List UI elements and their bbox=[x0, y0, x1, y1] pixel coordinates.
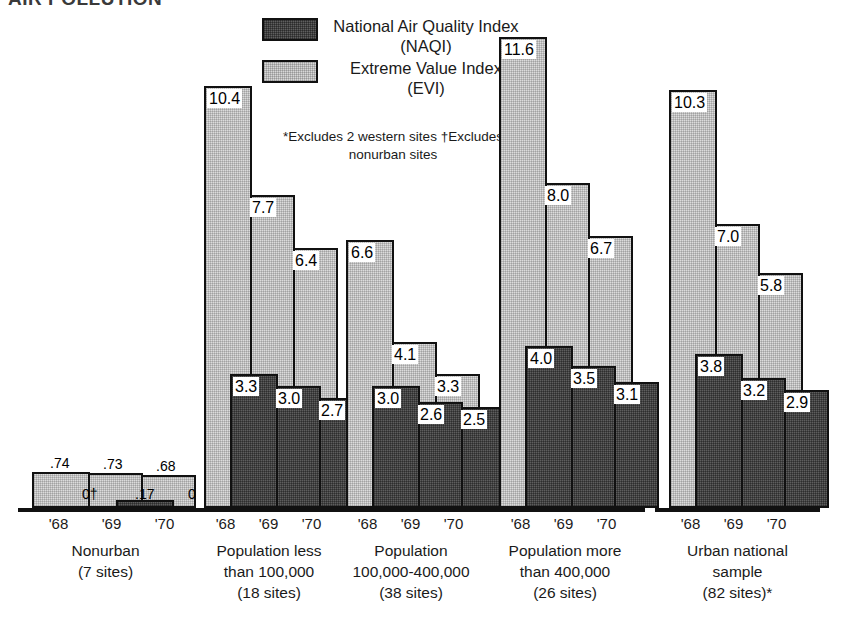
group-baseline bbox=[18, 508, 193, 512]
group-baseline bbox=[190, 508, 348, 512]
bar-value-label-naqi: 0 bbox=[186, 486, 198, 503]
bar-value-label-evi: 10.3 bbox=[672, 93, 707, 112]
bar-value-label-naqi: 2.6 bbox=[418, 405, 444, 424]
x-axis-year-labels: '68'69'70 bbox=[346, 515, 475, 532]
bar-naqi bbox=[695, 354, 743, 508]
x-axis-tick-label: '69 bbox=[389, 515, 432, 532]
bar-value-label-evi: 4.1 bbox=[392, 345, 418, 364]
bar-value-label-evi: 6.6 bbox=[349, 243, 375, 262]
chart-figure: AIR POLLUTION National Air Quality Index… bbox=[0, 0, 842, 626]
bar-value-label-evi: 3.3 bbox=[435, 377, 461, 396]
bar-value-label-evi: 6.7 bbox=[588, 239, 614, 258]
x-axis-tick-label: '70 bbox=[755, 515, 798, 532]
group-caption: Nonurban (7 sites) bbox=[18, 540, 193, 582]
bar-naqi bbox=[525, 346, 573, 508]
bar-value-label-evi: 7.7 bbox=[250, 198, 276, 217]
x-axis-year-labels: '68'69'70 bbox=[32, 515, 191, 532]
x-axis-tick-label: '70 bbox=[585, 515, 628, 532]
bar-value-label-naqi: 4.0 bbox=[528, 349, 554, 368]
group-caption: Urban national sample (82 sites)* bbox=[655, 540, 820, 603]
x-axis-tick-label: '68 bbox=[346, 515, 389, 532]
bar-value-label-evi: .73 bbox=[101, 456, 124, 473]
x-axis-tick-label: '68 bbox=[499, 515, 542, 532]
bar-value-label-evi: 10.4 bbox=[207, 89, 242, 108]
bar-value-label-naqi: 0† bbox=[80, 486, 100, 503]
bar-value-label-evi: 5.8 bbox=[758, 276, 784, 295]
bar-value-label-naqi: 3.8 bbox=[698, 357, 724, 376]
bar-value-label-naqi: 3.3 bbox=[233, 377, 259, 396]
x-axis-tick-label: '69 bbox=[247, 515, 290, 532]
plot-area: .740†.73.17.680'68'69'70Nonurban (7 site… bbox=[0, 0, 842, 626]
bar-value-label-evi: .74 bbox=[48, 455, 71, 472]
x-axis-tick-label: '69 bbox=[542, 515, 585, 532]
bar-value-label-evi: .68 bbox=[154, 458, 177, 475]
bar-value-label-naqi: 3.2 bbox=[741, 381, 767, 400]
x-axis-tick-label: '69 bbox=[712, 515, 755, 532]
x-axis-tick-label: '69 bbox=[85, 515, 138, 532]
group-caption: Population less than 100,000 (18 sites) bbox=[190, 540, 348, 603]
bar-value-label-naqi: 2.9 bbox=[784, 393, 810, 412]
group-caption: Population 100,000-400,000 (38 sites) bbox=[332, 540, 490, 603]
group-baseline bbox=[655, 508, 820, 512]
bar-value-label-naqi: 3.0 bbox=[276, 389, 302, 408]
bar-value-label-naqi: 2.5 bbox=[461, 410, 487, 429]
bar-value-label-naqi: 3.5 bbox=[571, 369, 597, 388]
x-axis-tick-label: '68 bbox=[32, 515, 85, 532]
x-axis-year-labels: '68'69'70 bbox=[499, 515, 628, 532]
x-axis-tick-label: '70 bbox=[138, 515, 191, 532]
bar-value-label-evi: 7.0 bbox=[715, 227, 741, 246]
x-axis-tick-label: '68 bbox=[204, 515, 247, 532]
x-axis-year-labels: '68'69'70 bbox=[669, 515, 798, 532]
x-axis-tick-label: '70 bbox=[432, 515, 475, 532]
x-axis-tick-label: '70 bbox=[290, 515, 333, 532]
bar-value-label-naqi: 3.0 bbox=[375, 389, 401, 408]
x-axis-tick-label: '68 bbox=[669, 515, 712, 532]
bar-value-label-naqi: 3.1 bbox=[614, 385, 640, 404]
group-baseline bbox=[485, 508, 645, 512]
group-caption: Population more than 400,000 (26 sites) bbox=[485, 540, 645, 603]
bar-value-label-naqi: .17 bbox=[133, 486, 156, 503]
group-baseline bbox=[332, 508, 490, 512]
bar-value-label-evi: 11.6 bbox=[502, 40, 536, 59]
bar-value-label-evi: 8.0 bbox=[545, 186, 571, 205]
bar-value-label-naqi: 2.7 bbox=[319, 401, 345, 420]
bar-value-label-evi: 6.4 bbox=[293, 251, 319, 270]
x-axis-year-labels: '68'69'70 bbox=[204, 515, 333, 532]
